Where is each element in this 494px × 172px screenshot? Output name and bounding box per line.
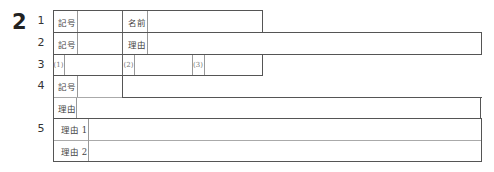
- question-number-2: 2: [37, 36, 45, 50]
- question-number-5: 5: [37, 122, 45, 136]
- q4-right-border: [480, 97, 481, 119]
- q3-3-answer[interactable]: [205, 55, 261, 75]
- q4-symbol-label: 記号: [53, 75, 77, 97]
- q1-symbol-label: 記号: [53, 10, 77, 33]
- q3-1-label: (1): [53, 54, 64, 76]
- q1-name-label: 名前: [123, 10, 147, 33]
- q5-reason2-label: 理由 2: [53, 140, 88, 162]
- divider: [88, 119, 89, 161]
- q1-symbol-answer[interactable]: [78, 11, 122, 32]
- q4-symbol-answer[interactable]: [78, 76, 122, 97]
- q2-reason-label: 理由: [123, 32, 147, 55]
- q4-reason-label: 理由: [53, 97, 77, 118]
- q2-reason-answer[interactable]: [148, 33, 480, 54]
- question-number-3: 3: [37, 58, 45, 72]
- question-number-4: 4: [37, 79, 45, 93]
- q3-3-label: (3): [192, 54, 204, 76]
- q3-2-label: (2): [123, 54, 134, 76]
- q3-2-answer[interactable]: [135, 55, 191, 75]
- q4-reason-answer[interactable]: [77, 98, 480, 118]
- q4-symbol-right-border: [122, 75, 123, 98]
- section-number: 2: [12, 10, 27, 34]
- q5-reason1-label: 理由 1: [53, 118, 88, 140]
- question-number-1: 1: [37, 14, 45, 28]
- q1-name-answer[interactable]: [148, 11, 261, 32]
- q2-symbol-label: 記号: [53, 32, 77, 55]
- q2-symbol-answer[interactable]: [78, 33, 122, 54]
- q3-1-answer[interactable]: [65, 55, 122, 75]
- q5-reason2-answer[interactable]: [89, 141, 479, 161]
- q5-reason1-answer[interactable]: [89, 119, 479, 139]
